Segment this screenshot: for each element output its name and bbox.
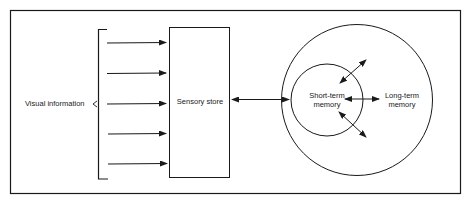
long-term-memory-label: Long-term memory — [380, 91, 424, 109]
visual-information-label: Visual information — [25, 99, 84, 108]
input-bracket — [99, 30, 109, 180]
long-term-line2: memory — [388, 100, 415, 109]
long-term-line1: Long-term — [385, 91, 419, 100]
input-arrows — [107, 43, 167, 165]
short-term-memory-label: Short-term memory — [305, 91, 349, 109]
short-term-line2: memory — [313, 100, 340, 109]
short-term-line1: Short-term — [309, 91, 344, 100]
brace-point — [93, 101, 97, 107]
sensory-store-label: Sensory store — [171, 97, 229, 106]
